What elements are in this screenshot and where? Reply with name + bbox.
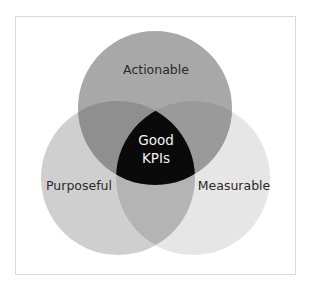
purposeful-label: Purposeful (46, 178, 112, 193)
measurable-label: Measurable (198, 178, 271, 193)
venn-diagram: Actionable Purposeful Measurable Good KP… (0, 0, 310, 286)
actionable-label: Actionable (123, 62, 189, 77)
center-label-line1: Good (138, 132, 174, 148)
center-label-line2: KPIs (142, 150, 170, 166)
